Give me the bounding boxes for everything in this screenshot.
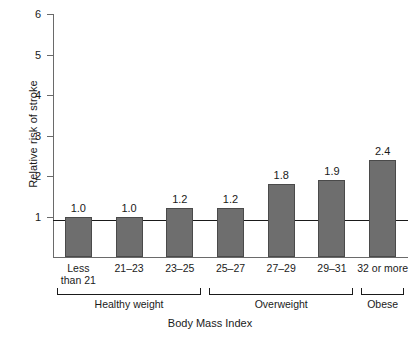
group-bracket <box>209 288 353 295</box>
x-axis-tick-label: 32 or more <box>353 263 413 275</box>
group-bracket <box>57 288 201 295</box>
bar <box>369 160 396 257</box>
bar <box>217 208 244 257</box>
bar <box>116 217 143 258</box>
y-axis-tick <box>47 14 53 15</box>
bar <box>268 184 295 257</box>
bar-value-label: 1.0 <box>109 203 149 214</box>
y-axis-tick <box>47 217 53 218</box>
bar-value-label: 1.8 <box>261 170 301 181</box>
group-label: Obese <box>321 299 420 310</box>
bar-value-label: 1.2 <box>211 194 251 205</box>
y-axis-tick <box>47 176 53 177</box>
y-axis-tick-label: 1 <box>11 212 41 223</box>
y-axis-tick-label: 5 <box>11 50 41 61</box>
y-axis-tick-label: 3 <box>11 131 41 142</box>
group-bracket <box>361 288 404 295</box>
bar-value-label: 1.0 <box>58 203 98 214</box>
y-axis-tick <box>47 95 53 96</box>
bar <box>166 208 193 257</box>
y-axis-tick-label: 4 <box>11 90 41 101</box>
bar <box>318 180 345 257</box>
bar-chart: Relative risk of stroke 123456 1.01.01.2… <box>0 0 420 338</box>
x-axis-title: Body Mass Index <box>0 317 420 329</box>
y-axis-tick-label: 2 <box>11 171 41 182</box>
x-axis-line <box>53 257 408 258</box>
bar-value-label: 1.2 <box>160 194 200 205</box>
y-axis-line <box>53 14 54 258</box>
y-axis-tick <box>47 136 53 137</box>
bar-value-label: 2.4 <box>363 146 403 157</box>
bar <box>65 217 92 258</box>
bar-value-label: 1.9 <box>312 166 352 177</box>
y-axis-tick <box>47 55 53 56</box>
y-axis-tick-label: 6 <box>11 9 41 20</box>
